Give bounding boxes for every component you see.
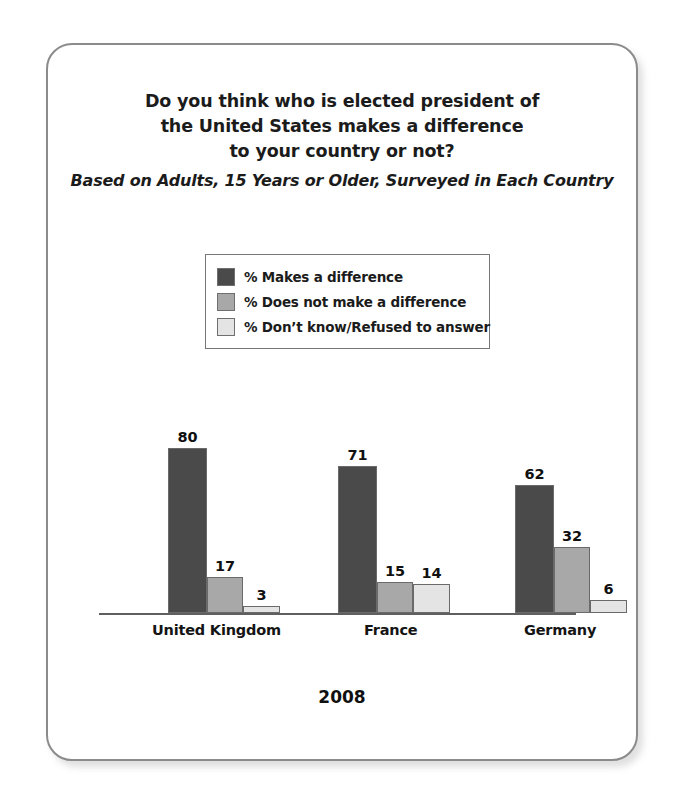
chart-title-line-1: Do you think who is elected president of	[48, 89, 636, 114]
legend-label-dont-know: % Don’t know/Refused to answer	[244, 319, 490, 335]
legend-swatch-icon-does-not-make-a-difference	[217, 293, 235, 311]
category-label-france: France	[364, 622, 417, 638]
legend-label-does-not-make-a-difference: % Does not make a difference	[244, 294, 466, 310]
category-label-germany: Germany	[524, 622, 596, 638]
bar-value-label: 71	[347, 447, 367, 463]
bar-france-makes-a-difference[interactable]: 71	[338, 466, 377, 612]
legend-item-dont-know: % Don’t know/Refused to answer	[217, 314, 479, 339]
bar-value-label: 3	[256, 587, 266, 603]
chart-title-line-3: to your country or not?	[48, 139, 636, 164]
chart-title-line-2: the United States makes a difference	[48, 114, 636, 139]
bar-value-label: 17	[215, 558, 235, 574]
legend-swatch-icon-dont-know	[217, 318, 235, 336]
legend-swatch-icon-makes-a-difference	[217, 268, 235, 286]
chart-card: Do you think who is elected president of…	[46, 43, 638, 761]
bar-value-label: 62	[524, 466, 544, 482]
legend-item-does-not-make-a-difference: % Does not make a difference	[217, 289, 479, 314]
bar-value-label: 14	[421, 565, 441, 581]
bar-value-label: 32	[562, 528, 582, 544]
chart-subtitle: Based on Adults, 15 Years or Older, Surv…	[48, 168, 636, 193]
chart-title-block: Do you think who is elected president of…	[48, 89, 636, 193]
bar-value-label: 6	[603, 581, 613, 597]
bar-united-kingdom-does-not-make-a-difference[interactable]: 17	[207, 577, 243, 612]
bar-united-kingdom-don-t-know-refused-to-answer[interactable]: 3	[243, 606, 280, 612]
bar-germany-makes-a-difference[interactable]: 62	[515, 485, 554, 613]
chart-plot-area: 80173United Kingdom711514France62326Germ…	[99, 375, 589, 615]
legend-item-makes-a-difference: % Makes a difference	[217, 264, 479, 289]
bar-france-does-not-make-a-difference[interactable]: 15	[377, 582, 413, 613]
bar-united-kingdom-makes-a-difference[interactable]: 80	[168, 448, 207, 613]
bar-germany-does-not-make-a-difference[interactable]: 32	[554, 547, 590, 613]
category-label-united-kingdom: United Kingdom	[152, 622, 281, 638]
bar-value-label: 15	[385, 563, 405, 579]
year-caption: 2008	[48, 687, 636, 707]
x-axis-baseline	[99, 613, 576, 616]
bar-france-don-t-know-refused-to-answer[interactable]: 14	[413, 584, 450, 613]
legend-label-makes-a-difference: % Makes a difference	[244, 269, 403, 285]
bar-germany-don-t-know-refused-to-answer[interactable]: 6	[590, 600, 627, 612]
chart-legend: % Makes a difference % Does not make a d…	[205, 254, 490, 349]
bar-value-label: 80	[177, 429, 197, 445]
